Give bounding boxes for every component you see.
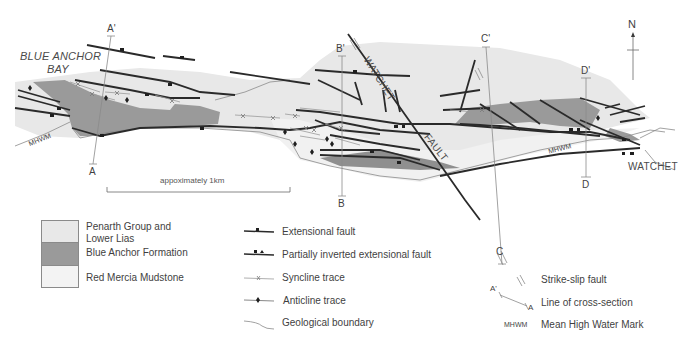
legend-blue-anchor-label: Blue Anchor Formation [86,247,188,259]
legend-swatch-red-mercia [41,265,79,288]
legend-swatch-penarth [41,220,79,243]
legend-strike-slip: Strike-slip fault [541,274,607,286]
north-arrow-head [631,32,635,37]
legend-mhwm-symbol: MHWM [504,321,527,328]
legend-swatch-blue-anchor [41,242,79,266]
legend-anticline: Anticline trace [283,295,346,307]
north-label: N [628,19,636,30]
section-c-bottom: C [496,247,503,257]
legend-mhwm: Mean High Water Mark [541,319,643,331]
legend-syncline: Syncline trace [282,272,345,284]
scale-bar-label: appoximately 1km [160,177,224,185]
north-arrow-icon [627,36,639,80]
watchet-town-label: WATCHET [628,162,678,172]
legend-penarth-label: Penarth Group and [86,221,171,233]
section-c-top: C' [481,34,490,44]
legend-inverted-fault: Partially inverted extensional fault [282,249,431,261]
section-a-top: A' [107,24,116,34]
legend-penarth-label-2: Lower Lias [86,233,134,245]
section-b-top: B' [336,44,345,54]
legend-geological-boundary: Geological boundary [282,317,374,329]
scale-bar [107,187,290,192]
legend-cross-section-symbol-top: A' [490,285,497,293]
section-a-bottom: A [89,167,96,177]
blue-anchor-bay-label-2: BAY [47,64,69,75]
legend-cross-section: Line of cross-section [541,297,633,309]
legend-extensional-fault: Extensional fault [282,226,355,238]
section-d-top: D' [581,66,590,76]
legend-cross-section-symbol-bottom: A [528,304,533,312]
section-d-bottom: D [582,180,589,190]
geological-map [0,0,693,348]
blue-anchor-bay-label: BLUE ANCHOR [20,51,101,62]
section-b-bottom: B [338,199,345,209]
legend-red-mercia-label: Red Mercia Mudstone [86,272,184,284]
